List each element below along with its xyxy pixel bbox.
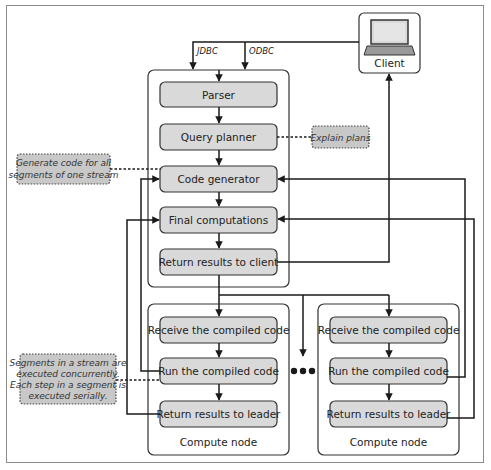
compute-2-step-return: Return results to leader bbox=[327, 401, 452, 427]
odbc-label: ODBC bbox=[249, 46, 274, 56]
leader-step-return-to-client: Return results to client bbox=[159, 249, 278, 275]
leader-step-parser: Parser bbox=[160, 82, 277, 107]
svg-text:Return results to client: Return results to client bbox=[159, 256, 278, 268]
svg-text:Receive the compiled code: Receive the compiled code bbox=[318, 324, 460, 336]
svg-text:Code generator: Code generator bbox=[177, 173, 260, 185]
jdbc-label: JDBC bbox=[195, 46, 218, 56]
leader-step-code-generator: Code generator bbox=[160, 166, 277, 192]
compute-2-step-run: Run the compiled code bbox=[328, 358, 449, 384]
svg-text:Generate code for all: Generate code for all bbox=[16, 158, 112, 168]
leader-step-final-computations: Final computations bbox=[160, 207, 277, 233]
svg-text:executed concurrently.: executed concurrently. bbox=[16, 369, 120, 379]
laptop-icon bbox=[364, 20, 415, 55]
svg-text:Return results to leader: Return results to leader bbox=[157, 408, 282, 420]
architecture-diagram: Client JDBC ODBC Parser Query planner Co… bbox=[0, 0, 491, 470]
compute-node-2-label: Compute node bbox=[350, 436, 427, 448]
svg-text:Segments in a stream are: Segments in a stream are bbox=[10, 358, 127, 368]
svg-text:Final computations: Final computations bbox=[169, 214, 268, 226]
feedback-lines-left bbox=[127, 179, 160, 414]
compute-1-step-return: Return results to leader bbox=[157, 401, 282, 427]
svg-text:Explain plans: Explain plans bbox=[311, 133, 371, 143]
note-segments: Segments in a stream are executed concur… bbox=[10, 354, 160, 404]
more-nodes-ellipsis-icon bbox=[291, 368, 315, 374]
svg-text:Parser: Parser bbox=[202, 89, 236, 101]
note-generate-code: Generate code for all segments of one st… bbox=[9, 154, 160, 184]
svg-text:segments of one stream: segments of one stream bbox=[9, 170, 119, 180]
svg-text:executed serially.: executed serially. bbox=[28, 391, 107, 401]
client-connections: JDBC ODBC bbox=[193, 42, 359, 69]
svg-text:Return results to leader: Return results to leader bbox=[327, 408, 452, 420]
svg-text:Run the compiled code: Run the compiled code bbox=[158, 365, 279, 377]
svg-text:Receive the compiled code: Receive the compiled code bbox=[148, 324, 290, 336]
svg-text:Each step in a segment is: Each step in a segment is bbox=[10, 380, 126, 390]
compute-node-1-label: Compute node bbox=[180, 436, 257, 448]
compute-1-step-run: Run the compiled code bbox=[158, 358, 279, 384]
client-node: Client bbox=[359, 13, 420, 73]
compute-2-step-receive: Receive the compiled code bbox=[318, 317, 460, 343]
compute-1-step-receive: Receive the compiled code bbox=[148, 317, 290, 343]
leader-step-query-planner: Query planner bbox=[160, 124, 277, 150]
return-to-client-arrow bbox=[277, 74, 389, 262]
svg-text:Query planner: Query planner bbox=[181, 131, 257, 143]
note-explain-plans: Explain plans bbox=[277, 126, 371, 148]
client-label: Client bbox=[374, 57, 404, 69]
svg-text:Run the compiled code: Run the compiled code bbox=[328, 365, 449, 377]
